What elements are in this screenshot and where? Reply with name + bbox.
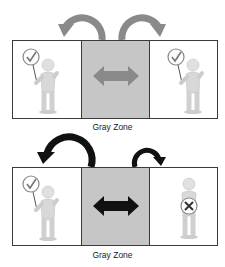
curved-arrow-left-icon: [56, 4, 106, 40]
person-approve-figure: [23, 174, 63, 242]
bottom-panel: [12, 167, 218, 246]
double-arrow-icon: [93, 65, 139, 87]
gray-zone-label: Gray Zone: [0, 250, 225, 260]
curved-arrow-right-small-icon: [131, 147, 169, 167]
double-arrow-icon: [93, 195, 139, 217]
top-panel: [12, 40, 218, 119]
person-reject-figure: [174, 176, 204, 242]
gray-zone-label: Gray Zone: [0, 122, 225, 132]
person-approve-figure: [168, 47, 208, 115]
curved-arrow-left-icon: [35, 135, 95, 167]
person-approve-figure: [23, 47, 63, 115]
curved-arrow-right-icon: [118, 4, 168, 40]
